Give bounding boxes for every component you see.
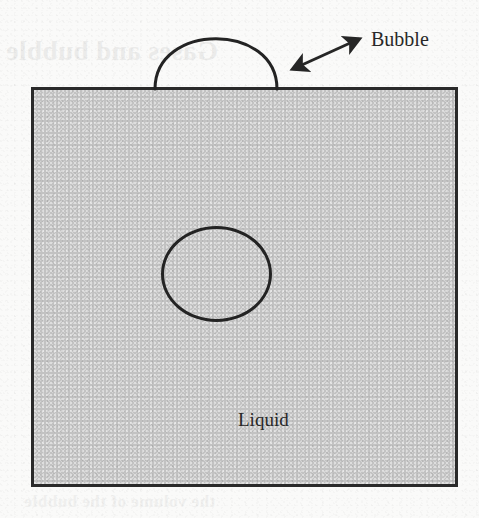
figure-canvas: Gases and bubble in a liquid the volume … bbox=[0, 0, 479, 518]
bubble-label: Bubble bbox=[371, 28, 429, 51]
bubble-callout-arrow bbox=[293, 39, 359, 69]
diagram-overlay bbox=[0, 0, 479, 518]
surface-bubble-dome bbox=[155, 39, 277, 89]
